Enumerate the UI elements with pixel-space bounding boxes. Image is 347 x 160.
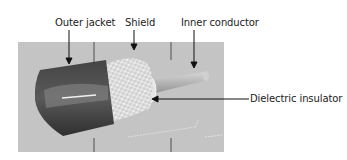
coax-illustration: [0, 0, 347, 160]
label-dielectric-insulator: Dielectric insulator: [250, 93, 342, 104]
label-inner-conductor: Inner conductor: [181, 17, 259, 28]
label-outer-jacket: Outer jacket: [55, 17, 115, 28]
label-shield: Shield: [125, 17, 155, 28]
